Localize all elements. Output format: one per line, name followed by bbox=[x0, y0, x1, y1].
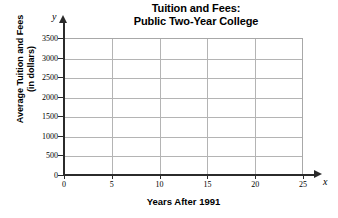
y-axis-tick-label: 3000 bbox=[42, 54, 58, 63]
y-axis-tick bbox=[58, 77, 63, 78]
gridline-horizontal bbox=[64, 156, 302, 157]
y-axis-tick bbox=[58, 58, 63, 59]
gridline-vertical bbox=[207, 39, 208, 175]
x-axis-tick bbox=[112, 175, 113, 179]
y-axis-tick bbox=[58, 38, 63, 39]
y-axis-title: Average Tuition and Fees (in dollars) bbox=[15, 0, 37, 140]
y-axis-tick bbox=[58, 116, 63, 117]
y-axis-tick bbox=[58, 175, 63, 176]
y-axis-variable-label: y bbox=[52, 11, 56, 22]
gridline-horizontal bbox=[64, 98, 302, 99]
y-axis-tick-label: 0 bbox=[54, 171, 58, 180]
y-axis-line bbox=[63, 22, 65, 175]
y-axis-tick-label: 2500 bbox=[42, 73, 58, 82]
x-axis-tick bbox=[64, 175, 65, 179]
x-axis-variable-label: x bbox=[323, 176, 327, 187]
gridline-vertical bbox=[112, 39, 113, 175]
y-axis-tick-label: 2000 bbox=[42, 93, 58, 102]
x-axis-tick-label: 20 bbox=[240, 180, 270, 189]
y-axis-title-line-1: Average Tuition and Fees bbox=[15, 0, 26, 140]
x-axis-tick bbox=[255, 175, 256, 179]
x-axis-tick-label: 15 bbox=[192, 180, 222, 189]
y-axis-tick bbox=[58, 155, 63, 156]
chart-title-line-2: Public Two-Year College bbox=[78, 15, 314, 28]
x-axis-arrow-icon bbox=[314, 170, 322, 178]
chart-screenshot: Tuition and Fees: Public Two-Year Colleg… bbox=[0, 0, 338, 218]
gridline-vertical bbox=[160, 39, 161, 175]
x-axis-title: Years After 1991 bbox=[64, 196, 303, 207]
y-axis-tick-label: 3500 bbox=[42, 34, 58, 43]
gridline-horizontal bbox=[64, 117, 302, 118]
x-axis-tick bbox=[160, 175, 161, 179]
y-axis-tick-label: 1000 bbox=[42, 132, 58, 141]
y-axis-tick-label: 1500 bbox=[42, 112, 58, 121]
y-axis-tick-label: 500 bbox=[46, 151, 58, 160]
x-axis-tick-label: 5 bbox=[97, 180, 127, 189]
x-axis-tick bbox=[207, 175, 208, 179]
chart-title-line-1: Tuition and Fees: bbox=[78, 2, 314, 15]
y-axis-title-line-2: (in dollars) bbox=[26, 0, 37, 140]
x-axis-line bbox=[63, 174, 316, 176]
gridline-horizontal bbox=[64, 78, 302, 79]
gridline-vertical bbox=[255, 39, 256, 175]
x-axis-tick-label: 25 bbox=[288, 180, 318, 189]
x-axis-tick-label: 0 bbox=[49, 180, 79, 189]
y-axis-arrow-icon bbox=[59, 15, 67, 23]
plot-area bbox=[64, 38, 303, 175]
y-axis-tick bbox=[58, 136, 63, 137]
x-axis-tick-label: 10 bbox=[145, 180, 175, 189]
y-axis-tick bbox=[58, 97, 63, 98]
gridline-horizontal bbox=[64, 137, 302, 138]
gridline-horizontal bbox=[64, 59, 302, 60]
x-axis-tick bbox=[303, 175, 304, 179]
chart-title: Tuition and Fees: Public Two-Year Colleg… bbox=[78, 2, 314, 28]
